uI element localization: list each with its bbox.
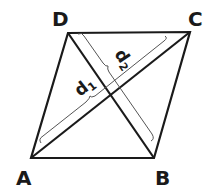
vertex-label-d: D [52,7,69,31]
vertex-label-c: C [188,7,203,31]
vertex-label-a: A [16,166,32,190]
rhombus-diagram: A B C D d1 d2 [0,0,214,195]
vertex-label-b: B [155,166,170,190]
diagonal-label-d2: d2 [109,45,138,74]
diagonal-label-d1: d1 [70,72,99,102]
